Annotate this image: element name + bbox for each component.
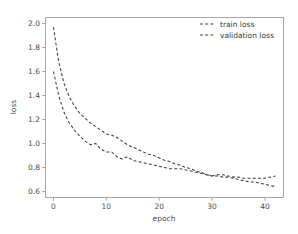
y-tick-label: 1.6 xyxy=(28,67,40,76)
legend-label-validation-loss: validation loss xyxy=(220,31,274,40)
x-axis-label: epoch xyxy=(153,214,176,223)
x-tick-label: 0 xyxy=(51,202,56,211)
y-tick-label: 1.0 xyxy=(28,139,40,148)
y-axis-label: loss xyxy=(9,100,18,115)
x-tick-label: 10 xyxy=(102,202,112,211)
y-tick-label: 2.0 xyxy=(28,19,40,28)
x-tick-label: 40 xyxy=(260,202,270,211)
y-tick-label: 1.4 xyxy=(28,91,40,100)
loss-curve-chart: 0.60.81.01.21.41.61.82.0 010203040 epoch… xyxy=(0,0,298,234)
figure-canvas: 0.60.81.01.21.41.61.82.0 010203040 epoch… xyxy=(0,0,298,234)
y-tick-label: 1.8 xyxy=(28,43,40,52)
y-tick-label: 0.8 xyxy=(28,163,40,172)
x-tick-label: 20 xyxy=(154,202,164,211)
y-tick-label: 1.2 xyxy=(28,115,40,124)
y-tick-label: 0.6 xyxy=(28,187,40,196)
x-tick-label: 30 xyxy=(207,202,217,211)
legend-label-train-loss: train loss xyxy=(220,20,254,29)
